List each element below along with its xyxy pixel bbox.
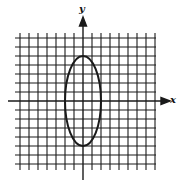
y-axis-arrow-icon (80, 17, 87, 26)
x-axis-arrow-icon (161, 98, 170, 105)
coordinate-plane (0, 0, 185, 185)
x-axis-label: x (170, 95, 176, 105)
y-axis-label: y (79, 4, 85, 14)
